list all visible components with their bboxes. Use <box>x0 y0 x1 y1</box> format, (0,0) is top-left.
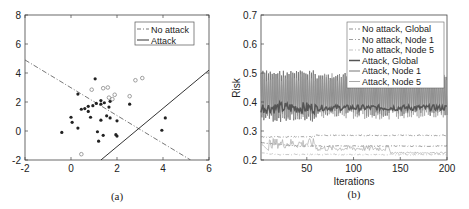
x-tick-label: 4 <box>160 163 166 174</box>
data-point-filled <box>76 127 79 130</box>
data-point-filled <box>60 131 63 134</box>
data-point-filled <box>76 92 79 95</box>
data-point-filled <box>99 99 102 102</box>
x-axis-label: Iterations <box>333 176 374 187</box>
legend-label: No attack <box>151 25 190 35</box>
y-tick-label: 4 <box>15 68 21 79</box>
data-point-filled <box>160 129 163 132</box>
caption-b: (b) <box>348 188 361 201</box>
data-point-filled <box>96 130 99 133</box>
y-tick-label: 0.6 <box>243 39 257 50</box>
data-point-filled <box>103 101 106 104</box>
data-point-filled <box>89 116 92 119</box>
legend-label: Attack <box>151 36 177 46</box>
data-point-filled <box>105 114 108 117</box>
x-tick-label: 6 <box>206 163 212 174</box>
scatter-chart-a: -20246-202468No attackAttack(a) <box>12 10 212 204</box>
data-point-filled <box>94 77 97 80</box>
data-point-filled <box>80 108 83 111</box>
y-tick-label: 2 <box>15 97 21 108</box>
legend-b: No attack, GlobalNo attack, Node 1No att… <box>347 22 444 88</box>
y-axis-label: Risk <box>231 77 242 97</box>
x-tick-label: 2 <box>114 163 120 174</box>
data-point-filled <box>87 105 90 108</box>
line-chart-b: 501001502000.20.30.40.50.60.7IterationsR… <box>231 10 456 202</box>
data-point-filled <box>95 102 98 105</box>
data-point-filled <box>99 103 102 106</box>
y-tick-label: 6 <box>15 39 21 50</box>
data-point-filled <box>71 121 74 124</box>
legend-label: Attack, Node 5 <box>362 77 421 87</box>
caption-a: (a) <box>111 190 124 203</box>
figure: -20246-202468No attackAttack(a)501001502… <box>0 0 469 209</box>
data-point-filled <box>97 140 100 143</box>
y-tick-label: 0 <box>15 126 21 137</box>
y-tick-label: 0.4 <box>243 97 257 108</box>
data-point-filled <box>102 134 105 137</box>
x-tick-label: 200 <box>439 163 456 174</box>
y-tick-label: 0.7 <box>243 10 257 21</box>
legend-label: No attack, Node 5 <box>362 45 434 55</box>
data-point-filled <box>115 119 118 122</box>
y-tick-label: -2 <box>12 155 21 166</box>
legend-label: No attack, Node 1 <box>362 35 434 45</box>
y-tick-label: 0.3 <box>243 126 257 137</box>
data-point-filled <box>87 110 90 113</box>
data-point-filled <box>107 105 110 108</box>
legend-label: Attack, Global <box>362 56 418 66</box>
data-point-filled <box>69 116 72 119</box>
y-tick-label: 8 <box>15 10 21 21</box>
data-point-filled <box>115 134 118 137</box>
legend-a: No attackAttack <box>135 22 194 46</box>
legend-label: Attack, Node 1 <box>362 66 421 76</box>
legend-label: No attack, Global <box>362 24 431 34</box>
y-tick-label: 0.5 <box>243 68 257 79</box>
data-point-filled <box>91 104 94 107</box>
data-point-filled <box>99 119 102 122</box>
data-point-filled <box>128 103 131 106</box>
x-tick-label: 0 <box>68 163 74 174</box>
x-tick-label: -2 <box>21 163 30 174</box>
x-tick-label: 150 <box>392 163 409 174</box>
data-point-filled <box>109 116 112 119</box>
x-tick-label: 100 <box>345 163 362 174</box>
y-tick-label: 0.2 <box>243 155 257 166</box>
x-tick-label: 50 <box>301 163 313 174</box>
data-point-filled <box>83 107 86 110</box>
data-point-filled <box>164 116 167 119</box>
